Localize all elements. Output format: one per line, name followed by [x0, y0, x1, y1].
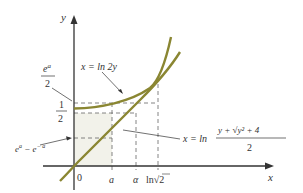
- tick-ln-sqrt2-label: ln√2: [146, 174, 164, 185]
- x-axis-arrow-icon: [265, 163, 274, 170]
- diff-label: ea − e− a: [15, 143, 45, 154]
- diff-minus-e: − e: [22, 144, 37, 154]
- diff-sup2: − a: [37, 143, 46, 149]
- lower-curve-denominator: 2: [247, 142, 252, 153]
- pointer-upper-curve: [102, 72, 122, 93]
- tick-ln-text: ln: [146, 174, 154, 185]
- tick-two-text: 2: [159, 174, 164, 185]
- ea2-numerator: ea: [43, 62, 51, 74]
- half-denominator: 2: [58, 113, 63, 124]
- shaded-region: [74, 113, 112, 166]
- y-axis-label: y: [60, 11, 66, 23]
- ea2-denominator: 2: [45, 78, 50, 89]
- x-axis-label: x: [267, 171, 273, 183]
- pointer-lower-curve: [123, 130, 180, 139]
- lower-curve-numerator: y + √y² + 4: [217, 125, 260, 135]
- tick-alpha-label: α: [133, 174, 139, 185]
- half-numerator: 1: [59, 99, 64, 110]
- ea2-sup: a: [47, 62, 51, 70]
- upper-curve-label: x = ln 2y: [80, 61, 117, 72]
- pointer-diff-arrow-icon: [66, 136, 72, 140]
- origin-label: 0: [77, 172, 82, 183]
- diagram-canvas: y x 0 a α ln√2 ea 2 1 2 ea − e− a x = ln…: [0, 0, 303, 193]
- tick-a-label: a: [109, 174, 114, 185]
- lower-curve-prefix: x = ln: [182, 133, 207, 144]
- upper-curve: [74, 37, 171, 109]
- y-axis-arrow-icon: [71, 15, 78, 24]
